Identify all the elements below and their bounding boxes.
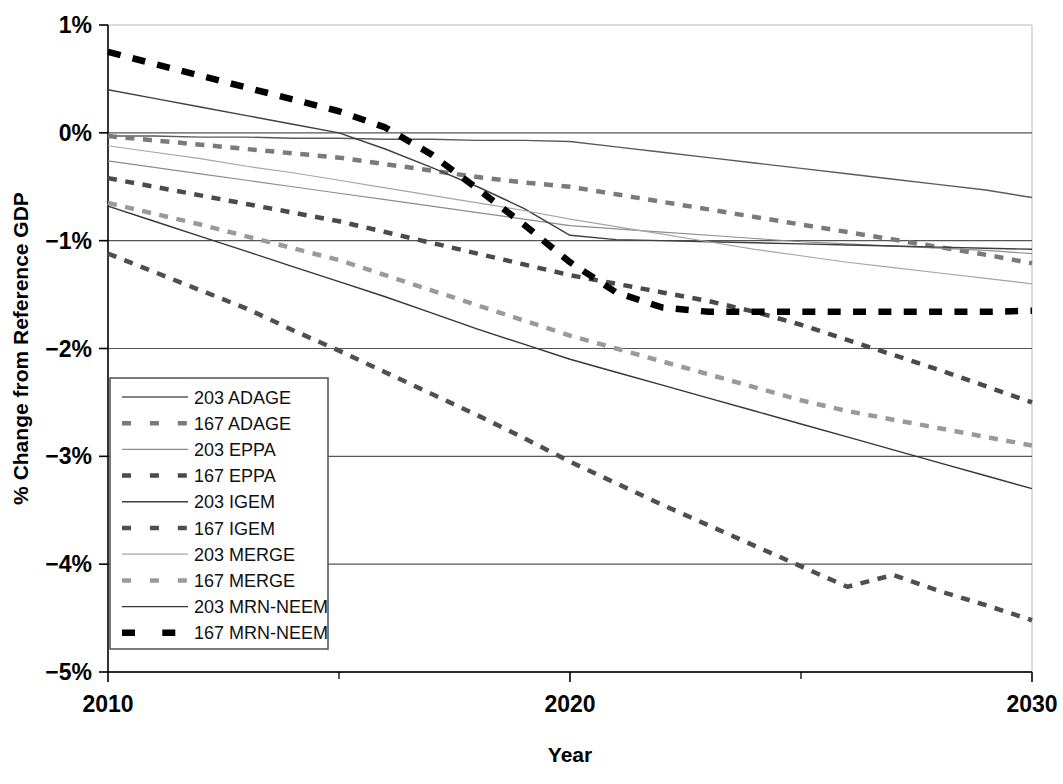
legend-label-1: 167 ADAGE [194,414,291,434]
y-axis-title: % Change from Reference GDP [9,192,32,505]
x-tick-label: 2010 [82,691,133,717]
legend-label-6: 203 MERGE [194,545,295,565]
legend-label-7: 167 MERGE [194,571,295,591]
y-tick-label: −5% [45,659,92,685]
gdp-change-line-chart: 1%0%−1%−2%−3%−4%−5% 201020202030 Year% C… [0,0,1063,784]
legend-label-8: 203 MRN-NEEM [194,597,328,617]
legend-label-3: 167 EPPA [194,466,276,486]
x-tick-label: 2020 [544,691,595,717]
chart-legend: 203 ADAGE167 ADAGE203 EPPA167 EPPA203 IG… [110,378,328,649]
y-tick-label: −2% [45,336,92,362]
legend-label-0: 203 ADAGE [194,388,291,408]
legend-label-5: 167 IGEM [194,519,275,539]
legend-label-9: 167 MRN-NEEM [194,623,328,643]
y-tick-label: −4% [45,551,92,577]
x-tick-label: 2030 [1006,691,1057,717]
legend-label-2: 203 EPPA [194,440,276,460]
legend-label-4: 203 IGEM [194,492,275,512]
y-tick-label: −3% [45,443,92,469]
y-tick-label: 0% [59,120,92,146]
y-tick-label: 1% [59,12,92,38]
x-axis-title: Year [548,743,592,766]
chart-container: 1%0%−1%−2%−3%−4%−5% 201020202030 Year% C… [0,0,1063,784]
y-tick-label: −1% [45,228,92,254]
